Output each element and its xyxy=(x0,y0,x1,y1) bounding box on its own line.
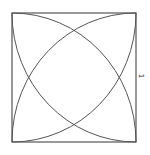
arc-center-bottom-right xyxy=(12,13,136,142)
square xyxy=(12,13,136,142)
side-length-label: 1 xyxy=(137,72,145,80)
arc-center-top-right xyxy=(12,13,136,142)
square-arcs-diagram xyxy=(0,0,150,155)
arc-center-bottom-left xyxy=(12,13,136,142)
arc-center-top-left xyxy=(12,13,136,142)
